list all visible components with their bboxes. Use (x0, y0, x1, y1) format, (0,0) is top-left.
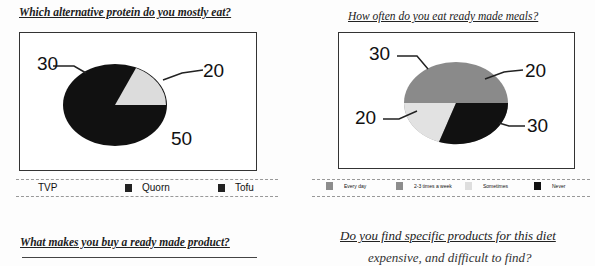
legend-swatch (465, 182, 472, 190)
question-find: Do you find specific products for this d… (340, 228, 556, 244)
legend-meals: Every day 2-3 times a week Sometimes Nev… (312, 179, 590, 197)
data-label-quorn: 30 (37, 53, 58, 75)
divider (22, 257, 257, 258)
data-label-tvp: 20 (203, 60, 224, 82)
legend-swatch (396, 182, 403, 190)
legend-item-every-day: Every day (326, 182, 366, 190)
legend-swatch (326, 182, 333, 190)
legend-swatch (125, 184, 132, 192)
legend-item-never: Never (534, 182, 565, 190)
question-buy: What makes you buy a ready made product? (20, 236, 230, 248)
data-label-tofu: 50 (171, 128, 192, 150)
legend-item-tvp: TVP (38, 182, 57, 193)
chart-frame-protein: 30 20 50 (19, 32, 257, 171)
chart-frame-meals: 30 20 20 30 (338, 32, 575, 169)
data-label-never: 30 (527, 115, 548, 137)
legend-item-2-3-times: 2-3 times a week (396, 182, 452, 190)
legend-item-tofu: Tofu (218, 182, 254, 193)
data-label-2-3-times: 20 (525, 60, 546, 82)
legend-protein: TVP Quorn Tofu (16, 179, 278, 197)
legend-swatch (218, 184, 225, 192)
chart-title-protein: Which alternative protein do you mostly … (19, 6, 231, 18)
data-label-every-day: 30 (369, 43, 390, 65)
data-label-sometimes: 20 (355, 107, 376, 129)
legend-item-quorn: Quorn (125, 182, 170, 193)
question-find-line2: expensive, and difficult to find? (368, 250, 532, 266)
legend-item-sometimes: Sometimes (465, 182, 508, 190)
chart-title-meals: How often do you eat ready made meals? (348, 10, 538, 22)
legend-swatch (534, 182, 541, 190)
